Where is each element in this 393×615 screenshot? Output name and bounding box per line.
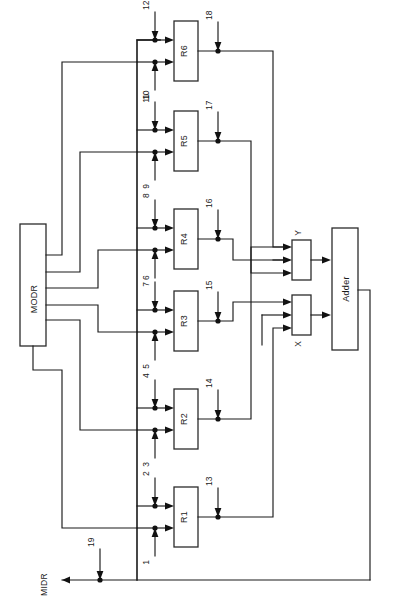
r5-label: R5 [179, 135, 189, 147]
signal-1-arrowhead [152, 528, 159, 537]
signal-3-arrowhead [152, 430, 159, 439]
signal-19-arrowhead [97, 571, 104, 580]
adder-feedback-path [358, 290, 370, 580]
signal-6-arrowhead [152, 301, 159, 310]
mux-y-label: Y [293, 230, 303, 236]
register-r1[interactable] [137, 328, 285, 556]
mux-y-rect[interactable] [292, 240, 311, 280]
signal-8-arrowhead [152, 219, 159, 228]
signal-13-arrowhead [215, 508, 222, 517]
signal-4-label: 4 [141, 373, 151, 378]
register-r3[interactable] [137, 282, 285, 360]
register-r2[interactable] [137, 247, 285, 458]
modr-wire-to-1 [33, 346, 137, 528]
adder-label: Adder [341, 276, 351, 302]
r4-label: R4 [179, 233, 189, 245]
signal-13-label: 13 [204, 476, 214, 486]
signal-2-label: 2 [141, 471, 151, 476]
signal-19-label: 19 [86, 537, 96, 547]
signal-17-label: 17 [204, 100, 214, 110]
signal-18-label: 18 [204, 10, 214, 20]
r5-in-bottom-arrowhead [165, 149, 174, 156]
r4-output-path [198, 239, 285, 260]
signal-4-arrowhead [152, 399, 159, 408]
mux-x-label: X [293, 341, 303, 347]
signal-18-arrowhead [215, 42, 222, 51]
r4-in-bottom-arrowhead [165, 247, 174, 254]
signal-3-label: 3 [141, 462, 151, 467]
r2-label: R2 [179, 413, 189, 425]
r1-label: R1 [179, 511, 189, 523]
r2-in-bottom-arrowhead [165, 427, 174, 434]
r3-output-path [198, 302, 285, 321]
r3-in-bottom-arrowhead [165, 329, 174, 336]
r1-output-path [198, 328, 285, 517]
mux-y-block[interactable] [283, 240, 331, 280]
signal-10-arrowhead [152, 121, 159, 130]
r3-in-top-arrowhead [165, 307, 174, 314]
mux-y-output-arrowhead [322, 257, 331, 264]
signal-12-label: 12 [141, 0, 151, 10]
modr-wire-to-7 [46, 250, 137, 288]
signal-10-label: 10 [141, 90, 151, 100]
signal-15-arrowhead [215, 312, 222, 321]
midr-label: MIDR [39, 573, 49, 596]
modr-wire-to-5 [46, 305, 137, 332]
r6-in-bottom-arrowhead [165, 59, 174, 66]
r5-in-top-arrowhead [165, 127, 174, 134]
signal-5-label: 5 [141, 364, 151, 369]
signal-9-label: 9 [141, 184, 151, 189]
signal-6-label: 6 [141, 275, 151, 280]
register-r4[interactable] [137, 200, 285, 278]
signal-8-label: 8 [141, 193, 151, 198]
mux-x-block[interactable] [283, 295, 331, 335]
r6-output-path [198, 51, 285, 247]
mux-x-output-arrowhead [322, 312, 331, 319]
modr-fanout-wires [33, 62, 137, 528]
signal-1-label: 1 [141, 560, 151, 565]
midr-arrowhead [62, 577, 70, 584]
modr-wire-to-3 [46, 320, 137, 430]
adder-block[interactable] [332, 228, 370, 580]
r3-label: R3 [179, 315, 189, 327]
modr-label: MODR [29, 284, 39, 313]
signal-5-arrowhead [152, 332, 159, 341]
modr-wire-to-11 [46, 62, 137, 255]
signal-16-arrowhead [215, 230, 222, 239]
schematic-svg: MODR Adder Y X MIDR R6 R5 R4 R3 R2 R1 12… [0, 0, 393, 615]
signal-9-arrowhead [152, 152, 159, 161]
diagram-canvas: MODR Adder Y X MIDR R6 R5 R4 R3 R2 R1 12… [0, 0, 393, 615]
signal-16-label: 16 [204, 198, 214, 208]
signal-15-label: 15 [204, 280, 214, 290]
r1-in-bottom-arrowhead [165, 525, 174, 532]
signal-14-arrowhead [215, 410, 222, 419]
midr-output-line [62, 549, 370, 583]
modr-wire-to-9 [46, 152, 137, 272]
r1-in-top-arrowhead [165, 503, 174, 510]
r6-in-top-arrowhead [165, 37, 174, 44]
signal-17-arrowhead [215, 132, 222, 141]
signal-11-arrowhead [152, 62, 159, 71]
signal-7-label: 7 [141, 282, 151, 287]
signal-14-label: 14 [204, 378, 214, 388]
r6-label: R6 [179, 45, 189, 57]
r2-in-top-arrowhead [165, 405, 174, 412]
signal-2-arrowhead [152, 497, 159, 506]
signal-7-arrowhead [152, 250, 159, 259]
r4-in-top-arrowhead [165, 225, 174, 232]
mux-x-rect[interactable] [292, 295, 311, 335]
signal-12-arrowhead [152, 31, 159, 40]
